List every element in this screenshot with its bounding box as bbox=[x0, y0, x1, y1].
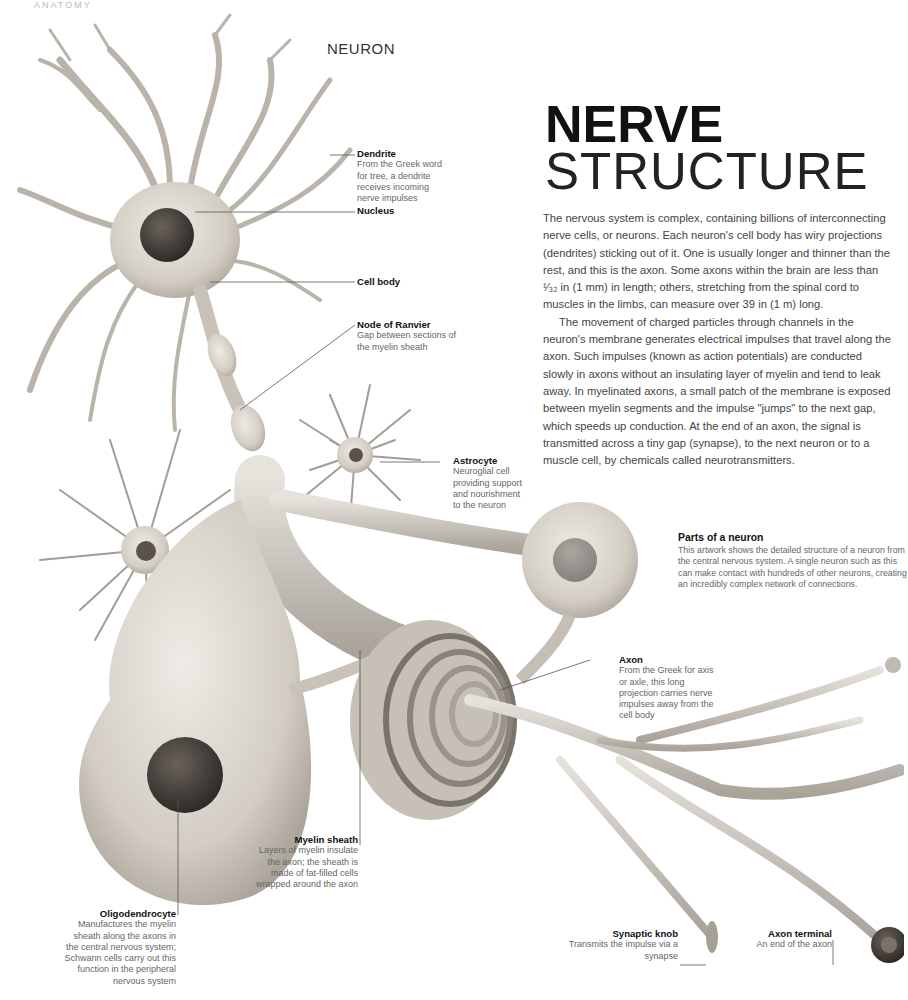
callout-text: Neuroglial cell providing support and no… bbox=[453, 466, 522, 510]
callout-title: Nucleus bbox=[357, 205, 452, 216]
callout-text: Layers of myelin insulate the axon; the … bbox=[256, 845, 358, 889]
callout-dendrite: Dendrite From the Greek word for tree, a… bbox=[357, 148, 452, 204]
callout-title: Axon terminal bbox=[742, 928, 832, 939]
parts-text: This artwork shows the detailed structur… bbox=[678, 545, 907, 590]
body-paragraph: The movement of charged particles throug… bbox=[543, 314, 895, 470]
callout-cell-body: Cell body bbox=[357, 276, 452, 287]
callout-myelin-sheath: Myelin sheath Layers of myelin insulate … bbox=[248, 834, 358, 890]
callout-axon-terminal: Axon terminal An end of the axon bbox=[742, 928, 832, 951]
callout-axon: Axon From the Greek for axis or axle, th… bbox=[619, 654, 714, 722]
callout-node-of-ranvier: Node of Ranvier Gap between sections of … bbox=[357, 319, 457, 353]
callout-title: Cell body bbox=[357, 276, 452, 287]
callout-text: An end of the axon bbox=[756, 939, 832, 949]
callout-text: From the Greek for axis or axle, this lo… bbox=[619, 665, 714, 720]
page-title-light: STRUCTURE bbox=[545, 146, 869, 197]
callout-title: Oligodendrocyte bbox=[60, 908, 176, 919]
callout-title: Node of Ranvier bbox=[357, 319, 457, 330]
callout-oligodendrocyte: Oligodendrocyte Manufactures the myelin … bbox=[60, 908, 176, 987]
callout-synaptic-knob: Synaptic knob Transmits the impulse via … bbox=[556, 928, 678, 962]
myelin-sheath-section bbox=[350, 620, 514, 820]
parts-of-neuron-box: Parts of a neuron This artwork shows the… bbox=[678, 532, 908, 591]
callout-text: Gap between sections of the myelin sheat… bbox=[357, 330, 456, 351]
top-nucleus bbox=[140, 208, 194, 262]
body-text: The nervous system is complex, containin… bbox=[543, 210, 895, 469]
callout-text: From the Greek word for tree, a dendrite… bbox=[357, 159, 442, 203]
body-paragraph: The nervous system is complex, containin… bbox=[543, 210, 895, 314]
callout-astrocyte: Astrocyte Neuroglial cell providing supp… bbox=[453, 455, 528, 511]
callout-title: Astrocyte bbox=[453, 455, 528, 466]
callout-text: Transmits the impulse via a synapse bbox=[569, 939, 678, 960]
section-label: NEURON bbox=[327, 40, 395, 57]
parts-title: Parts of a neuron bbox=[678, 532, 908, 544]
synaptic-knob bbox=[706, 921, 718, 953]
callout-nucleus: Nucleus bbox=[357, 205, 452, 216]
callout-title: Dendrite bbox=[357, 148, 452, 159]
callout-text: Manufactures the myelin sheath along the… bbox=[64, 919, 176, 985]
callout-title: Synaptic knob bbox=[556, 928, 678, 939]
callout-title: Myelin sheath bbox=[248, 834, 358, 845]
callout-title: Axon bbox=[619, 654, 714, 665]
